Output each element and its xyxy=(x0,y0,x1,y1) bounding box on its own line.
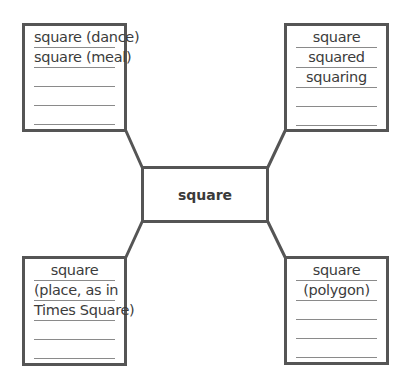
center-box: square xyxy=(141,166,269,223)
box-line: Times Square) xyxy=(34,301,115,321)
box-line: square (meal) xyxy=(34,48,115,68)
box-line: square xyxy=(34,261,115,281)
blank-line xyxy=(34,106,115,125)
blank-line xyxy=(296,301,377,320)
blank-line xyxy=(296,339,377,358)
box-line: (polygon) xyxy=(296,281,377,301)
box-line: square (dance) xyxy=(34,28,115,48)
connector-top-right xyxy=(268,131,285,167)
blank-line xyxy=(296,88,377,107)
connector-bottom-left xyxy=(126,222,142,257)
blank-line xyxy=(34,340,115,359)
blank-line xyxy=(296,320,377,339)
blank-line xyxy=(34,321,115,340)
blank-line xyxy=(34,87,115,106)
box-top-left: square (dance) square (meal) xyxy=(22,23,127,132)
box-top-right: square squared squaring xyxy=(284,23,389,132)
center-label: square xyxy=(178,187,232,203)
box-line: squared xyxy=(296,48,377,68)
blank-line xyxy=(296,107,377,126)
box-bottom-right: square (polygon) xyxy=(284,256,389,365)
box-line: square xyxy=(296,28,377,48)
connector-top-left xyxy=(126,131,142,167)
blank-line xyxy=(34,68,115,87)
box-line: (place, as in xyxy=(34,281,115,301)
connector-bottom-right xyxy=(268,222,285,257)
box-bottom-left: square (place, as in Times Square) xyxy=(22,256,127,366)
box-line: square xyxy=(296,261,377,281)
box-line: squaring xyxy=(296,68,377,88)
